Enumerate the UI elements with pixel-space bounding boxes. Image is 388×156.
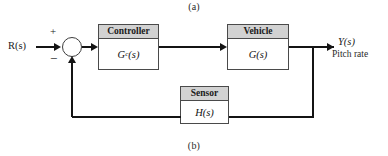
output-signal-description: Pitch rate [332, 49, 368, 59]
block-controller-transfer-function: Gc(s) [99, 39, 158, 69]
block-vehicle-title: Vehicle [228, 25, 288, 39]
controller-tf-base: G [118, 49, 126, 60]
arrowhead-summer-to-controller [91, 43, 98, 51]
arrowhead-input-to-summer [54, 43, 61, 51]
wire-controller-to-vehicle [159, 46, 223, 48]
block-controller: Controller Gc(s) [98, 24, 159, 70]
summer-positive-sign: + [50, 26, 56, 37]
summer-negative-sign: − [50, 52, 57, 65]
wire-sensor-to-summer-horizontal [72, 116, 181, 118]
block-vehicle-transfer-function: G(s) [228, 39, 288, 69]
wire-feedback-to-summer-vertical [71, 62, 73, 117]
arrowhead-controller-to-vehicle [220, 43, 227, 51]
output-signal-label: Y(s) [338, 36, 355, 47]
wire-feedback-takeoff-vertical [312, 46, 314, 118]
block-controller-title: Controller [99, 25, 158, 39]
summing-junction [62, 37, 82, 57]
wire-input-to-summer [36, 46, 56, 48]
block-sensor-transfer-function: H(s) [181, 101, 228, 123]
block-sensor-title: Sensor [181, 87, 228, 101]
figure-caption-b: (b) [0, 140, 388, 151]
block-diagram-figure: (a) R(s) + − Controller Gc(s) Vehicle G(… [0, 0, 388, 156]
block-sensor: Sensor H(s) [180, 86, 229, 124]
wire-feedback-to-sensor [229, 116, 314, 118]
block-vehicle: Vehicle G(s) [227, 24, 289, 70]
figure-caption-a: (a) [0, 1, 388, 12]
controller-tf-arg: (s) [128, 49, 139, 60]
arrowhead-feedback-into-summer [68, 56, 76, 63]
input-signal-label: R(s) [8, 40, 26, 51]
